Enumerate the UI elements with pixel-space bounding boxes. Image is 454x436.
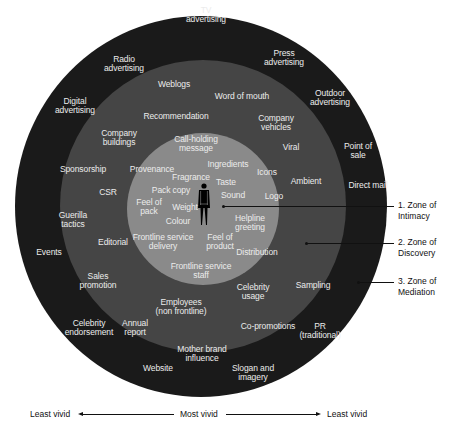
- discovery-zone-item: Logo: [265, 192, 284, 201]
- mediation-leader-line: [359, 282, 394, 283]
- intimacy-zone-item: Frontline service staff: [171, 262, 232, 279]
- mediation-zone-item: Website: [143, 364, 173, 373]
- intimacy-leader-line: [224, 206, 394, 207]
- discovery-zone-item: Ambient: [291, 177, 321, 186]
- intimacy-zone-item: Taste: [216, 178, 236, 187]
- intimacy-zone-item: Feel of pack: [136, 198, 161, 215]
- zone-label-discovery: 2. Zone of Discovery: [398, 237, 436, 259]
- discovery-zone-item: Viral: [283, 143, 299, 152]
- arrow-right-icon: [316, 412, 321, 416]
- discovery-zone-item: Sales promotion: [80, 272, 117, 289]
- intimacy-zone-item: Colour: [166, 217, 190, 226]
- discovery-zone-item: Guerilla tactics: [59, 211, 88, 228]
- intimacy-zone-item: Ingredients: [208, 160, 249, 169]
- intimacy-zone-item: Distribution: [236, 248, 277, 257]
- intimacy-zone-item: Pack copy: [152, 186, 190, 195]
- intimacy-zone-item: Call-holding message: [174, 135, 218, 152]
- axis-line-right: [226, 414, 316, 415]
- discovery-zone-item: Co-promotions: [241, 322, 295, 331]
- discovery-zone-item: Company buildings: [101, 129, 137, 146]
- axis-left-label: Least vivid: [30, 409, 70, 419]
- mediation-zone-item: Events: [36, 248, 61, 257]
- discovery-zone-item: Annual report: [122, 319, 148, 336]
- discovery-zone-item: Company vehicles: [258, 114, 294, 131]
- discovery-zone-item: Sampling: [296, 281, 331, 290]
- intimacy-zone-item: Provenance: [130, 165, 174, 174]
- zone-label-intimacy: 1. Zone of Intimacy: [398, 200, 436, 222]
- intimacy-zone-item: Frontline service delivery: [133, 233, 194, 250]
- person-icon: [196, 183, 212, 229]
- discovery-zone-item: CSR: [99, 188, 117, 197]
- mediation-zone-item: Digital advertising: [55, 97, 95, 114]
- discovery-zone-item: Recommendation: [143, 112, 208, 121]
- axis-right-label: Least vivid: [327, 409, 367, 419]
- discovery-zone-item: Editorial: [98, 238, 128, 247]
- mediation-zone-item: TV advertising: [186, 6, 226, 23]
- mediation-zone-item: Point of sale: [344, 142, 372, 159]
- axis-center-label: Most vivid: [180, 409, 218, 419]
- discovery-zone-item: Word of mouth: [215, 92, 269, 101]
- discovery-leader-line: [307, 243, 394, 244]
- intimacy-zone-item: Sound: [221, 191, 245, 200]
- mediation-zone-item: PR (traditional): [299, 322, 340, 339]
- intimacy-zone-item: Helpline greeting: [235, 214, 265, 231]
- discovery-zone-item: Icons: [257, 168, 277, 177]
- discovery-zone-item: Mother brand influence: [177, 345, 226, 362]
- mediation-zone-item: Celebrity endorsement: [65, 319, 114, 336]
- intimacy-zone-item: Feel of product: [206, 233, 234, 250]
- mediation-zone-item: Direct mail: [348, 181, 387, 190]
- discovery-zone-item: Celebrity usage: [237, 283, 270, 300]
- mediation-zone-item: Press advertising: [264, 49, 304, 66]
- discovery-zone-item: Weblogs: [158, 80, 190, 89]
- mediation-zone-item: Slogan and imagery: [232, 364, 274, 381]
- intimacy-zone-item: Weight: [172, 203, 198, 212]
- discovery-zone-item: Employees (non frontline): [156, 298, 207, 315]
- axis-line-left: [82, 414, 174, 415]
- mediation-zone-item: Sponsorship: [60, 165, 106, 174]
- mediation-zone-item: Radio advertising: [104, 55, 144, 72]
- intimacy-zone-item: Fragrance: [172, 173, 210, 182]
- zone-label-mediation: 3. Zone of Mediation: [398, 276, 436, 298]
- mediation-zone-item: Outdoor advertising: [310, 89, 350, 106]
